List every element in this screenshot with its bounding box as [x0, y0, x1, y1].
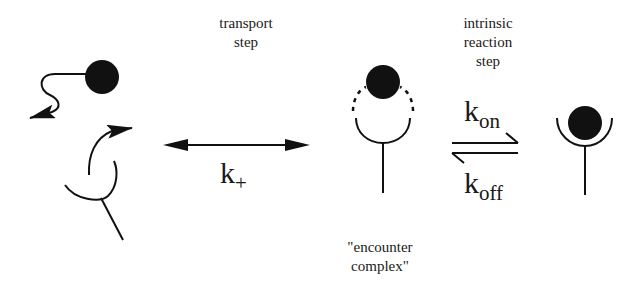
label-line: step [196, 33, 296, 52]
label-line: intrinsic [438, 14, 538, 33]
receptor-cup-icon [65, 161, 116, 200]
ligand-ball-icon [568, 106, 602, 140]
bound-state [557, 106, 612, 195]
rotation-arrow [89, 128, 132, 175]
dotted-binding-arc [353, 87, 366, 111]
diffusion-path-arrow [30, 74, 86, 118]
k-on-label: kon [464, 96, 500, 136]
intrinsic-step-label: intrinsic reaction step [438, 14, 538, 71]
label-line: transport [196, 14, 296, 33]
label-line: reaction [438, 33, 538, 52]
dotted-binding-arc [400, 87, 413, 111]
encounter-complex-label: "encounter complex" [325, 238, 435, 276]
k-subscript: off [479, 181, 503, 205]
k-subscript: + [235, 171, 247, 195]
transport-arrow [163, 139, 310, 151]
equilibrium-arrows [452, 133, 518, 163]
k-plus-label: k+ [220, 158, 247, 198]
diagram-canvas [0, 0, 635, 303]
separated-state [30, 60, 132, 240]
k-subscript: on [479, 109, 500, 133]
label-line: "encounter [325, 238, 435, 257]
receptor-stem [101, 198, 123, 240]
k-off-label: koff [464, 168, 503, 208]
encounter-complex-state [353, 65, 413, 193]
receptor-cup-icon [356, 118, 410, 143]
transport-step-label: transport step [196, 14, 296, 52]
ligand-ball-icon [85, 60, 119, 94]
label-line: complex" [325, 257, 435, 276]
k-base: k [220, 156, 235, 189]
k-base: k [464, 166, 479, 199]
label-line: step [438, 52, 538, 71]
ligand-ball-icon [366, 65, 400, 99]
k-base: k [464, 94, 479, 127]
